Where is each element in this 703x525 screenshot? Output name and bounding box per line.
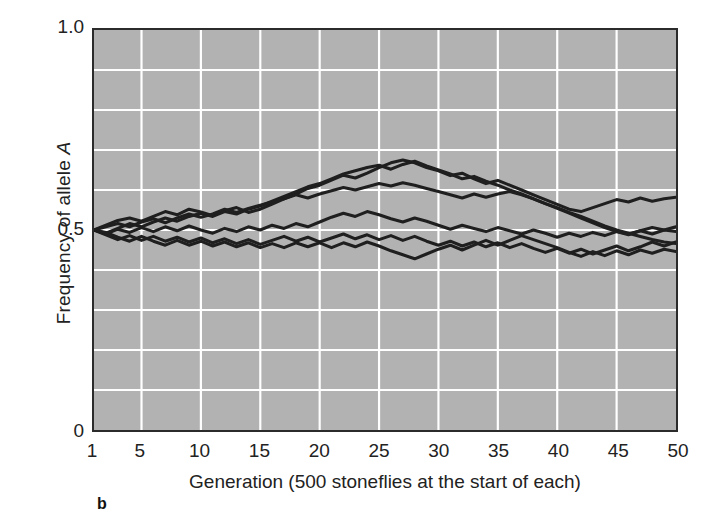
x-tick-label: 10 (178, 440, 222, 462)
x-tick-label: 1 (70, 440, 114, 462)
x-tick-label: 5 (118, 440, 162, 462)
y-tick-label: 1.0 (38, 16, 84, 38)
y-axis-label-allele: A (53, 142, 74, 155)
chart-figure: Frequency of allele A 1.0 0.5 0 15101520… (0, 0, 703, 525)
x-tick-label: 50 (656, 440, 700, 462)
x-tick-label: 30 (417, 440, 461, 462)
x-tick-label: 20 (297, 440, 341, 462)
data-lines (94, 30, 676, 430)
plot-area (92, 28, 678, 432)
panel-label: b (97, 495, 107, 513)
x-tick-label: 15 (237, 440, 281, 462)
x-tick-label: 25 (357, 440, 401, 462)
x-tick-label: 45 (596, 440, 640, 462)
x-tick-label: 40 (536, 440, 580, 462)
x-axis-label: Generation (500 stoneflies at the start … (92, 471, 678, 493)
y-tick-label: 0 (38, 420, 84, 442)
series-line (94, 161, 676, 234)
x-tick-label: 35 (477, 440, 521, 462)
y-tick-label: 0.5 (38, 218, 84, 240)
